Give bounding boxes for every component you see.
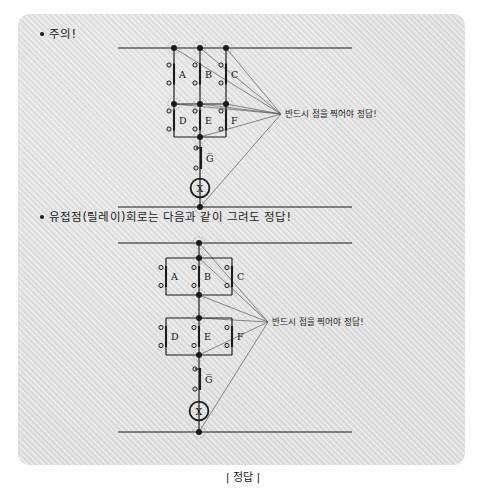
contact-D-top: [167, 109, 174, 131]
contact-label-G-bottom: G̅: [205, 374, 213, 385]
contact-C-top: [219, 63, 226, 85]
contact-F-top: [219, 109, 226, 131]
contact-D-bottom: [159, 325, 166, 347]
contact-B-top: [193, 63, 200, 85]
contact-label-D-top: D: [179, 115, 187, 126]
annotation-bottom: 반드시 점을 찍어야 정답!: [272, 316, 364, 327]
bullet-dot-icon: [40, 215, 44, 219]
circuit-diagram-canvas: A B C D E F G̅ X: [0, 0, 486, 490]
contact-A-bottom: [159, 265, 166, 287]
note-relay: 유접점(릴레이)회로는 다음과 같이 그려도 정답!: [40, 208, 291, 224]
contact-label-A-bottom: A: [170, 271, 178, 282]
ladder-diagram-top: A B C D E F G̅ X: [118, 42, 377, 213]
contact-label-F-top: F: [231, 115, 238, 126]
contact-label-E-bottom: E: [204, 331, 211, 342]
contact-label-B-bottom: B: [204, 271, 211, 282]
coil-label-X-bottom: X: [196, 406, 203, 417]
contact-label-F-bottom: F: [237, 331, 244, 342]
ladder-diagram-bottom: A B C D E F G̅ X: [118, 237, 364, 438]
note-relay-label: 유접점(릴레이)회로는 다음과 같이 그려도 정답!: [49, 210, 291, 224]
note-caution: 주의!: [40, 25, 76, 41]
annotation-top: 반드시 점을 찍어야 정답!: [285, 108, 377, 119]
contact-label-C-top: C: [231, 69, 238, 80]
contact-label-B-top: B: [205, 69, 212, 80]
answer-caption: | 정답 |: [170, 468, 316, 484]
leader-lines-top: [174, 48, 281, 207]
contact-B-bottom: [192, 265, 199, 287]
page-root: 주의! 유접점(릴레이)회로는 다음과 같이 그려도 정답! | 정답 |: [0, 0, 486, 490]
contact-label-G-top: G̅: [206, 153, 214, 164]
coil-label-X-top: X: [197, 183, 204, 194]
contact-label-C-bottom: C: [237, 271, 244, 282]
contact-label-A-top: A: [178, 69, 186, 80]
note-caution-label: 주의!: [49, 27, 76, 41]
contact-F-bottom: [225, 325, 232, 347]
contact-E-top: [193, 109, 200, 131]
contact-label-E-top: E: [205, 115, 212, 126]
bullet-dot-icon: [40, 32, 44, 36]
contact-A-top: [167, 63, 174, 85]
contact-E-bottom: [192, 325, 199, 347]
contact-label-D-bottom: D: [171, 331, 179, 342]
